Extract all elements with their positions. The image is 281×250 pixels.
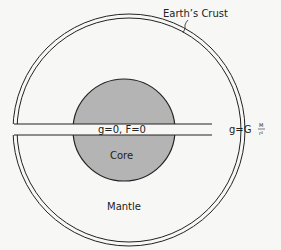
surface-equation-lhs: g=G [229,124,251,135]
mantle-label: Mantle [107,201,141,212]
surface-equation-denominator: r² [259,130,263,136]
crust-pointer-line [183,20,188,33]
earth-tunnel-diagram: Earth’s Crust g=0, F=0 Core Mantle g=G M… [0,0,281,250]
surface-equation-numerator: M [259,122,263,128]
core-label: Core [110,150,133,161]
crust-label: Earth’s Crust [163,8,228,19]
center-equation-label: g=0, F=0 [98,124,146,135]
